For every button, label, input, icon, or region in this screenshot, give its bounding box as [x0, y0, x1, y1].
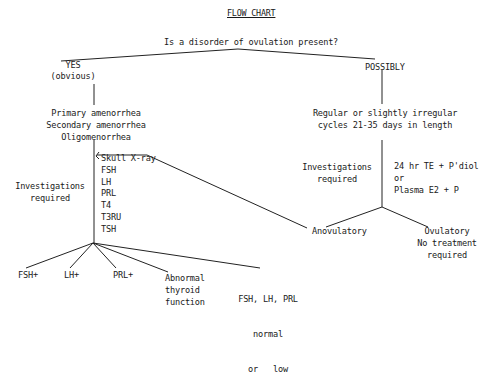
- outcome-lh: LH+: [64, 270, 79, 282]
- condition-secondary: Secondary amenorrhea: [26, 120, 166, 132]
- left-investigations-list: Skull X-ray FSH LH PRL T4 T3RU TSH: [101, 153, 156, 236]
- condition-primary: Primary amenorrhea: [26, 108, 166, 120]
- conditions-node: Primary amenorrhea Secondary amenorrhea …: [26, 108, 166, 143]
- cycle-condition-node: Regular or slightly irregular cycles 21-…: [310, 108, 460, 132]
- right-investigations-list: 24 hr TE + P'diol or Plasma E2 + P: [394, 161, 479, 196]
- outcome-normal-low: FSH, LH, PRL normal or low: [228, 271, 308, 376]
- outcome-thyroid: Abnormal thyroid function: [165, 273, 205, 308]
- outcome-ovulatory: Ovulatory No treatment required: [410, 226, 484, 261]
- outcome-anovulatory: Anovulatory: [312, 226, 367, 238]
- right-investigations-label: Investigations required: [302, 162, 372, 186]
- investigation-item: FSH: [101, 165, 156, 177]
- condition-oligo: Oligomenorrhea: [26, 132, 166, 144]
- yes-sublabel: (obvious): [38, 71, 108, 83]
- investigation-item: T4: [101, 200, 156, 212]
- investigation-item: Skull X-ray: [101, 153, 156, 165]
- left-investigations-label: Investigations required: [12, 181, 88, 205]
- chart-title: FLOW CHART: [227, 8, 275, 20]
- question-node: Is a disorder of ovulation present?: [164, 37, 338, 49]
- investigation-item: PRL: [101, 188, 156, 200]
- investigation-item: TSH: [101, 224, 156, 236]
- outcome-fsh: FSH+: [18, 270, 38, 282]
- investigation-item: LH: [101, 177, 156, 189]
- outcome-prl: PRL+: [113, 270, 133, 282]
- investigation-item: or: [394, 173, 479, 185]
- yes-label: YES: [48, 60, 98, 72]
- possibly-label: POSSIBLY: [365, 62, 405, 74]
- investigation-item: Plasma E2 + P: [394, 185, 479, 197]
- investigation-item: 24 hr TE + P'diol: [394, 161, 479, 173]
- investigation-item: T3RU: [101, 212, 156, 224]
